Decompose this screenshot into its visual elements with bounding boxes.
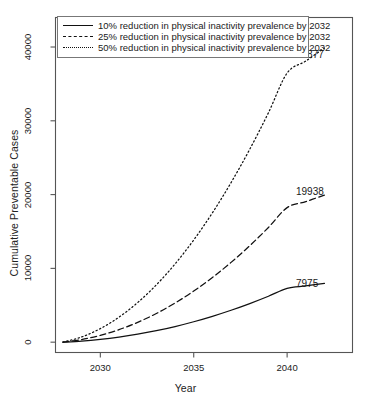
legend-swatch-dotted-line-icon [63, 42, 93, 53]
legend-swatch-dashed-line-icon [63, 31, 93, 42]
legend-item[interactable]: 25% reduction in physical inactivity pre… [63, 31, 303, 42]
series-line-dashed [63, 195, 325, 342]
series-line-solid [63, 283, 325, 342]
y-tick-label: 40000 [21, 27, 35, 67]
x-tick-label: 2040 [247, 362, 327, 373]
legend-item-label: 50% reduction in physical inactivity pre… [98, 42, 330, 53]
series-end-value-label: 19938 [296, 186, 324, 197]
chart-figure: Cumulative Preventable Cases Year 203020… [0, 0, 371, 406]
x-tick-label: 2035 [154, 362, 234, 373]
series-line-dotted [63, 48, 325, 342]
legend-item-label: 25% reduction in physical inactivity pre… [98, 31, 330, 42]
legend-item[interactable]: 50% reduction in physical inactivity pre… [63, 42, 303, 53]
y-tick-label: 30000 [21, 101, 35, 141]
series-end-value-label: 7975 [296, 278, 318, 289]
x-axis-title: Year [0, 382, 371, 394]
y-tick-label: 0 [21, 322, 35, 362]
legend-item-label: 10% reduction in physical inactivity pre… [98, 20, 330, 31]
y-tick-label: 20000 [21, 175, 35, 215]
plot-area [0, 0, 371, 406]
y-tick-label: 10000 [21, 248, 35, 288]
chart-legend: 10% reduction in physical inactivity pre… [57, 16, 309, 58]
x-tick-label: 2030 [60, 362, 140, 373]
legend-swatch-solid-line-icon [63, 20, 93, 31]
legend-item[interactable]: 10% reduction in physical inactivity pre… [63, 20, 303, 31]
